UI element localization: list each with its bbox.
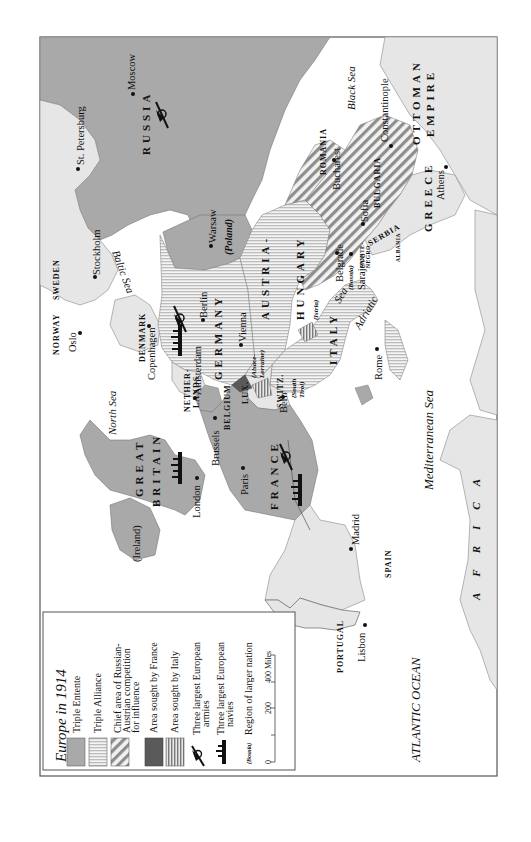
label-south-tirol-2: Tirol): [298, 382, 306, 398]
label-bosnia: (Bosnia): [347, 265, 355, 290]
label-st-petersburg: St. Petersburg: [75, 106, 86, 165]
legend-region-sample: (Bosnia): [246, 743, 253, 764]
legend-label-sought-italy: Area sought by Italy: [169, 651, 180, 733]
legend-label-triple-alliance: Triple Alliance: [92, 673, 103, 733]
label-poland: (Poland): [223, 219, 235, 255]
label-alsace-1: (Alsace-: [250, 354, 258, 378]
legend-label-region: Region of larger nation: [243, 642, 254, 735]
scale-label-200: 200: [264, 702, 273, 714]
label-oslo: Oslo: [67, 332, 78, 352]
europe-1914-map: RUSSIA OTTOMAN EMPIRE ROMANIA BULGARIA S…: [0, 0, 531, 842]
label-great: GREAT: [133, 439, 145, 497]
label-belgium: BELGIUM: [223, 384, 232, 430]
label-vienna: Vienna: [237, 312, 248, 342]
legend-swatch-sought-france: [145, 738, 163, 766]
legend-label-triple-entente: Triple Entente: [71, 675, 82, 733]
label-romania: ROMANIA: [319, 128, 328, 175]
label-russia: RUSSIA: [140, 91, 152, 155]
label-spain: SPAIN: [384, 550, 393, 578]
legend-label-sought-france: Area sought by France: [148, 642, 159, 733]
legend-label-russian-austrian-3: for influence: [130, 681, 141, 733]
label-britain: BRITAIN: [150, 433, 162, 507]
label-sweden: SWEDEN: [52, 259, 61, 300]
label-greece: GREECE: [422, 162, 434, 232]
legend-swatch-sought-italy: [166, 738, 184, 766]
label-rome: Rome: [373, 355, 384, 380]
label-ottoman: OTTOMAN: [410, 59, 422, 145]
label-france: FRANCE: [268, 440, 280, 510]
legend-swatch-triple-entente: [67, 738, 85, 766]
label-moscow: Moscow: [126, 53, 137, 90]
label-bulgaria: BULGARIA: [373, 157, 382, 208]
label-mediterranean: Mediterranean Sea: [421, 389, 436, 491]
label-norway: NORWAY: [52, 314, 61, 355]
label-istria: (Istria): [312, 300, 320, 320]
label-belgrade: Belgrade: [334, 244, 345, 282]
label-portugal: PORTUGAL: [336, 620, 345, 673]
label-stockholm: Stockholm: [91, 229, 102, 275]
label-constantinople: Constantinople: [379, 78, 390, 142]
label-athens: Athens: [435, 170, 446, 200]
label-bern: Bern: [278, 392, 289, 413]
label-berlin: Berlin: [198, 291, 209, 318]
label-ireland: (Ireland): [131, 525, 143, 562]
label-bucharest: Bucharest: [331, 148, 342, 190]
label-alsace-2: Lorraine): [258, 350, 266, 379]
label-netherlands-1: NETHER-: [183, 369, 192, 412]
label-black-sea: Black Sea: [345, 66, 357, 110]
label-albania: ALBANIA: [395, 233, 401, 262]
label-copenhagen: Copenhagen: [146, 327, 157, 380]
label-germany: GERMANY: [212, 294, 224, 380]
label-empire: EMPIRE: [424, 69, 436, 137]
label-north-sea: North Sea: [106, 390, 118, 436]
label-madrid: Madrid: [350, 513, 361, 545]
label-atlantic: ATLANTIC OCEAN: [408, 656, 423, 763]
label-amsterdam: Amsterdam: [192, 346, 203, 395]
legend-swatch-triple-alliance: [89, 738, 107, 766]
label-sofia: Sofia: [359, 199, 370, 222]
label-south-tirol-1: (South: [290, 378, 298, 398]
label-italy: ITALY: [327, 312, 339, 365]
label-sarajevo: Sarajevo: [356, 253, 367, 290]
legend-title: Europe in 1914: [53, 669, 69, 763]
label-austria: AUSTRIA-: [259, 235, 271, 320]
label-hungary: HUNGARY: [294, 236, 306, 320]
scale-label-400: 400 Miles: [264, 651, 273, 683]
label-lux: LUX.: [241, 381, 250, 404]
legend-label-navies-2: navies: [224, 701, 235, 727]
legend-label-armies-2: armies: [200, 700, 211, 727]
label-lisbon: Lisbon: [356, 632, 367, 662]
label-africa: AFRICA: [470, 463, 482, 601]
legend-swatch-russian-austrian: [111, 738, 129, 766]
label-warsaw: Warsaw: [207, 209, 218, 243]
label-brussels: Brussels: [210, 430, 221, 466]
label-paris: Paris: [239, 474, 250, 495]
label-london: London: [191, 485, 202, 518]
scale-label-0: 0: [264, 760, 273, 764]
